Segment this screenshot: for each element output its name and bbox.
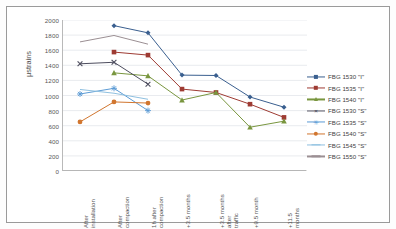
- x-axis-tick-label: +11.5months: [286, 172, 300, 228]
- plot-svg: [63, 20, 307, 171]
- legend-item-2[interactable]: FBG 1540 "I": [307, 94, 393, 105]
- data-point-marker: [145, 108, 151, 114]
- legend-item-label: FBG 1540 "S": [328, 130, 366, 137]
- data-point-marker: [146, 53, 151, 58]
- data-point-marker: [282, 105, 287, 110]
- legend-swatch-icon: [307, 84, 325, 93]
- x-axis-tick-label: 1h aftercompaction: [150, 172, 164, 228]
- data-point-marker: [78, 120, 83, 125]
- legend-swatch-icon: ×: [307, 106, 325, 115]
- x-axis-tick-label: Aftercompaction: [116, 172, 130, 228]
- data-point-marker: [112, 50, 117, 55]
- legend-swatch-icon: [307, 72, 325, 81]
- legend-item-label: FBG 1535 "I": [328, 85, 364, 92]
- x-axis-tick-label-line: After: [116, 172, 123, 228]
- x-axis-tick-label-line: compaction: [123, 172, 130, 228]
- data-point-marker: [146, 101, 151, 106]
- legend-item-5[interactable]: FBG 1540 "S": [307, 128, 393, 139]
- gridlines: [63, 20, 307, 171]
- series-line: [80, 88, 148, 110]
- x-axis-tick-label-line: 1h after: [150, 172, 157, 228]
- x-axis-tick-labels: AfterinstallationAftercompaction1h after…: [62, 172, 306, 228]
- series-lines: [77, 23, 287, 129]
- series-line: [114, 52, 284, 117]
- x-axis-tick-label-line: traffic: [232, 172, 239, 228]
- legend-item-label: FBG 1535 "S": [328, 119, 366, 126]
- legend-swatch-icon: ✳: [307, 118, 325, 127]
- y-axis-tick-label: 1600: [45, 47, 63, 54]
- data-point-marker: [248, 102, 253, 107]
- data-point-marker: [214, 73, 219, 78]
- plot-area: 0200400600800100012001400160018002000: [62, 20, 306, 171]
- series-line: [80, 35, 148, 44]
- x-axis-tick-label: Afterinstallation: [82, 172, 96, 228]
- x-axis-tick-label-line: +9.5 month: [252, 172, 259, 228]
- legend-item-4[interactable]: ✳FBG 1535 "S": [307, 117, 393, 128]
- y-axis-tick-label: 1200: [45, 77, 63, 84]
- x-axis-tick-label-line: +3.5 months: [218, 172, 225, 228]
- x-axis-tick-label-line: installation: [89, 172, 96, 228]
- data-point-marker: [180, 87, 185, 92]
- legend-item-label: FBG 1540 "I": [328, 96, 364, 103]
- y-axis-tick-label: 1000: [45, 92, 63, 99]
- legend-swatch-icon: [307, 129, 325, 138]
- legend-item-6[interactable]: FBG 1545 "S": [307, 139, 393, 150]
- data-point-marker: [111, 85, 117, 91]
- legend-item-3[interactable]: ×FBG 1530 "S": [307, 105, 393, 116]
- data-point-marker: [77, 91, 83, 97]
- x-axis-tick-label-line: compaction: [157, 172, 164, 228]
- data-point-marker: [146, 82, 151, 87]
- legend-swatch-icon: [307, 141, 325, 150]
- series-7: [80, 35, 148, 44]
- x-axis-tick-label-line: After: [82, 172, 89, 228]
- chart-page: μstrains 0200400600800100012001400160018…: [0, 0, 396, 229]
- legend-item-label: FBG 1530 "S": [328, 107, 366, 114]
- y-axis-title: μstrains: [24, 51, 33, 77]
- legend-item-1[interactable]: FBG 1535 "I": [307, 82, 393, 93]
- legend-swatch-icon: [307, 152, 325, 161]
- legend-swatch-icon: [307, 95, 325, 104]
- x-axis-tick-label-line: +3.5 months: [184, 172, 191, 228]
- chart-frame: μstrains 0200400600800100012001400160018…: [6, 6, 390, 223]
- y-axis-tick-label: 1800: [45, 32, 63, 39]
- data-point-marker: [112, 23, 117, 28]
- x-axis-tick-label: +3.5 months: [184, 172, 191, 228]
- x-axis-tick-label: +3.5 monthsaftertraffic: [218, 172, 240, 228]
- legend-item-label: FBG 1545 "S": [328, 142, 366, 149]
- chart-legend: FBG 1530 "I"FBG 1535 "I"FBG 1540 "I"×FBG…: [307, 71, 393, 162]
- legend-item-label: FBG 1550 "S": [328, 153, 366, 160]
- y-axis-tick-label: 400: [48, 137, 63, 144]
- data-point-marker: [112, 100, 117, 105]
- legend-item-7[interactable]: FBG 1550 "S": [307, 151, 393, 162]
- series-line: [80, 102, 148, 122]
- y-axis-tick-label: 600: [48, 122, 63, 129]
- series-5: [78, 100, 151, 125]
- series-line: [114, 26, 284, 108]
- y-axis-tick-label: 2000: [45, 17, 63, 24]
- legend-item-0[interactable]: FBG 1530 "I": [307, 71, 393, 82]
- x-axis-tick-label-line: months: [293, 172, 300, 228]
- x-axis-tick-label-line: +11.5: [286, 172, 293, 228]
- x-axis-tick-label: +9.5 month: [252, 172, 259, 228]
- legend-item-label: FBG 1530 "I": [328, 73, 364, 80]
- y-axis-tick-label: 200: [48, 152, 63, 159]
- y-axis-tick-label: 800: [48, 107, 63, 114]
- series-4: [77, 85, 151, 113]
- x-axis-tick-label-line: after: [225, 172, 232, 228]
- y-axis-tick-label: 1400: [45, 62, 63, 69]
- series-1: [112, 50, 287, 120]
